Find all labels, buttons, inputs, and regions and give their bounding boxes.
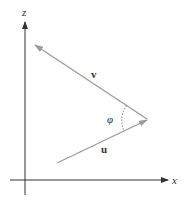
- x-axis: x: [10, 174, 177, 186]
- vector-u-label: u: [101, 143, 107, 155]
- vector-v: v: [35, 45, 147, 119]
- vector-u-line: [57, 120, 147, 163]
- x-axis-label: x: [171, 174, 177, 186]
- z-axis-label: z: [21, 6, 27, 18]
- vector-u: u: [57, 120, 147, 163]
- z-axis: z: [21, 6, 27, 195]
- vector-v-line: [35, 45, 147, 119]
- angle-phi: φ: [107, 106, 127, 131]
- diagram-canvas: z x v u φ: [0, 0, 185, 200]
- vector-angle-diagram: z x v u φ: [0, 0, 185, 200]
- angle-phi-label: φ: [107, 113, 113, 125]
- angle-arc: [122, 106, 127, 131]
- vector-v-label: v: [91, 68, 97, 80]
